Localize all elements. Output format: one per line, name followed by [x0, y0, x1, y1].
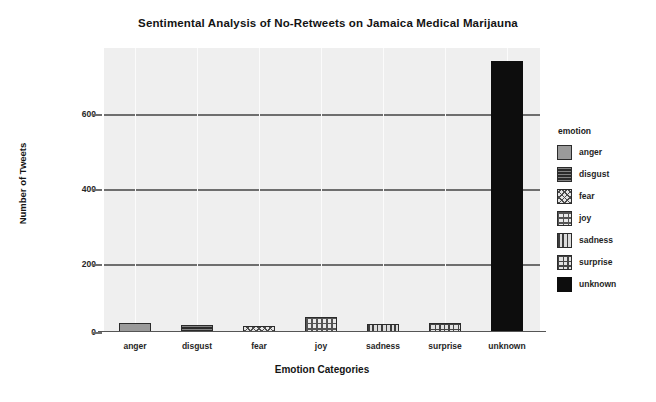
x-tick-label-anger: anger	[100, 341, 170, 351]
vgridline-anger	[135, 48, 136, 332]
y-tick-label-200: 200	[62, 259, 96, 269]
legend-swatch-joy	[557, 211, 572, 226]
x-tick-label-fear: fear	[224, 341, 294, 351]
chart-title: Sentimental Analysis of No-Retweets on J…	[0, 17, 656, 29]
legend-label-unknown: unknown	[579, 279, 616, 289]
legend-label-anger: anger	[579, 147, 602, 157]
legend-swatch-sadness	[557, 233, 572, 248]
plot-area	[104, 48, 540, 332]
y-tick-mark-600	[92, 114, 102, 116]
legend-label-fear: fear	[579, 191, 595, 201]
legend-item-fear[interactable]: fear	[557, 185, 616, 207]
legend-label-sadness: sadness	[579, 235, 613, 245]
legend-item-anger[interactable]: anger	[557, 141, 616, 163]
x-axis-line	[98, 331, 546, 332]
vgridline-fear	[259, 48, 260, 332]
x-axis-title: Emotion Categories	[104, 364, 540, 375]
y-axis-ticks: 600 400 200 0	[52, 0, 96, 402]
y-tick-label-400: 400	[62, 184, 96, 194]
x-tick-label-unknown: unknown	[472, 341, 542, 351]
legend-item-disgust[interactable]: disgust	[557, 163, 616, 185]
legend-item-unknown[interactable]: unknown	[557, 273, 616, 295]
legend-item-joy[interactable]: joy	[557, 207, 616, 229]
legend-item-surprise[interactable]: surprise	[557, 251, 616, 273]
vgridline-disgust	[197, 48, 198, 332]
x-tick-label-sadness: sadness	[348, 341, 418, 351]
legend-label-joy: joy	[579, 213, 591, 223]
legend-item-sadness[interactable]: sadness	[557, 229, 616, 251]
legend-swatch-anger	[557, 145, 572, 160]
vgridline-joy	[321, 48, 322, 332]
legend-swatch-fear	[557, 189, 572, 204]
y-axis-title: Number of Tweets	[17, 114, 28, 254]
x-tick-label-disgust: disgust	[162, 341, 232, 351]
bar-unknown[interactable]	[491, 61, 523, 332]
y-tick-label-0: 0	[62, 327, 96, 337]
legend-label-surprise: surprise	[579, 257, 613, 267]
legend-swatch-unknown	[557, 277, 572, 292]
legend-swatch-surprise	[557, 255, 572, 270]
vgridline-sadness	[383, 48, 384, 332]
legend-label-disgust: disgust	[579, 169, 609, 179]
x-tick-label-surprise: surprise	[410, 341, 480, 351]
vgridline-surprise	[445, 48, 446, 332]
y-tick-label-600: 600	[62, 109, 96, 119]
bar-joy[interactable]	[305, 317, 337, 332]
x-tick-label-joy: joy	[286, 341, 356, 351]
legend-swatch-disgust	[557, 167, 572, 182]
y-tick-mark-200	[92, 264, 102, 266]
legend: emotion anger disgust fear joy sadness s…	[557, 126, 616, 295]
y-tick-mark-400	[92, 189, 102, 191]
legend-title: emotion	[558, 126, 616, 136]
